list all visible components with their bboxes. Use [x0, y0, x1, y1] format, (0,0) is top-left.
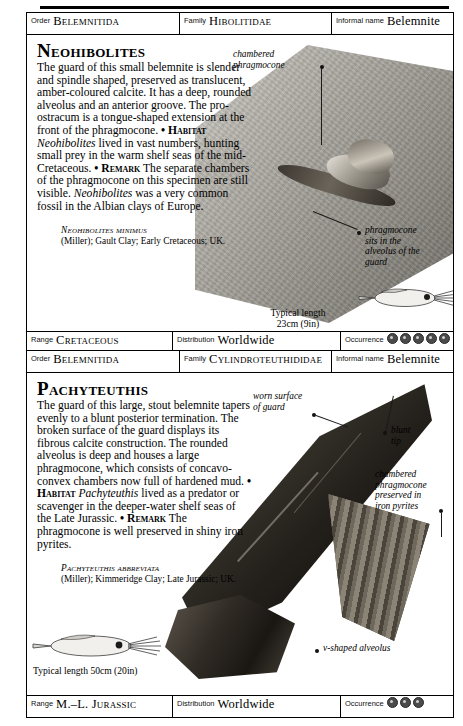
entry2-distribution-cell: Distribution Worldwide	[172, 696, 340, 718]
habitat-bullet: •	[247, 475, 251, 488]
entry2-occurrence-cell: Occurrence	[340, 696, 451, 718]
habitat-genus: Neohibolites	[37, 137, 96, 150]
specimen-photo-phragmocone-cone	[321, 491, 439, 641]
entry2-order-cell: Order Belemnitida	[27, 351, 179, 373]
remark-label: Remark	[101, 162, 140, 175]
entry2-specimen-caption: Pachyteuthis abbreviata (Miller); Kimmer…	[61, 563, 252, 585]
distribution-label: Distribution	[177, 699, 215, 708]
caption-line-1: chambered	[233, 49, 274, 59]
caption-marker-phragmocone-alveolus	[357, 231, 361, 235]
order-value: Belemnitida	[53, 352, 119, 367]
order-label: Order	[31, 354, 50, 363]
entry1-body: Neohibolites The guard of this small bel…	[27, 35, 453, 331]
specimen-detail: (Miller); Gault Clay; Early Cretaceous; …	[61, 236, 225, 246]
leader-line-pyrites	[441, 513, 442, 537]
caption-line-2: sits in the	[365, 236, 401, 246]
caption-line-1: worn surface	[253, 391, 302, 401]
entry1-order-cell: Order Belemnitida	[27, 13, 179, 35]
occurrence-dots	[387, 333, 451, 344]
entry2-informal-cell: Informal name Belemnite	[331, 351, 451, 373]
specimen-detail: (Miller); Kimmeridge Clay; Late Jurassic…	[61, 574, 236, 584]
caption-marker-chambered-phragmocone	[320, 65, 324, 69]
caption-line-2: phragmocone	[233, 60, 285, 70]
order-value: Belemnitida	[53, 14, 119, 29]
informal-name-label: Informal name	[336, 354, 384, 363]
description-text: The guard of this small belemnite is sle…	[37, 61, 251, 137]
genus-heading: Neohibolites	[37, 41, 252, 60]
informal-name-value: Belemnite	[387, 352, 440, 367]
page-top-rule	[40, 6, 449, 9]
specimen-name: Pachyteuthis abbreviata	[61, 563, 159, 573]
entry1-text-column: Neohibolites The guard of this small bel…	[37, 41, 252, 256]
entry2-body: Pachyteuthis The guard of this large, st…	[27, 373, 453, 695]
caption-line-1: chambered	[375, 469, 416, 479]
caption-line-3: alveolus of the	[365, 246, 420, 256]
description-text: The guard of this large, stout belemnite…	[37, 399, 250, 488]
entry1-informal-cell: Informal name Belemnite	[331, 13, 451, 35]
entry-neohibolites: Order Belemnitida Family Hibolitidae Inf…	[26, 12, 454, 354]
family-label: Family	[184, 16, 206, 25]
remark-bullet: •	[120, 512, 127, 525]
typical-length-label: Typical length 50cm (20in)	[33, 665, 138, 676]
occurrence-dot	[387, 333, 398, 344]
distribution-label: Distribution	[177, 335, 215, 344]
caption-marker-blunt-tip	[383, 431, 387, 435]
occurrence-dot	[413, 697, 424, 708]
caption-line-2: of guard	[253, 402, 285, 412]
typical-length-label: Typical length	[270, 307, 325, 318]
leader-line-chambered-phragmocone	[321, 67, 322, 145]
entry1-description: The guard of this small belemnite is sle…	[37, 62, 252, 213]
range-label: Range	[31, 335, 53, 344]
genus-heading: Pachyteuthis	[37, 379, 252, 398]
caption-v-shaped-alveolus: v-shaped alveolus	[323, 643, 449, 654]
occurrence-dots	[387, 697, 424, 708]
caption-blunt-tip: blunt tip	[391, 425, 449, 446]
remark-label: Remark	[127, 512, 166, 525]
informal-name-value: Belemnite	[387, 14, 440, 29]
caption-marker-worn-surface	[312, 413, 316, 417]
order-label: Order	[31, 16, 50, 25]
habitat-bullet: •	[161, 124, 168, 137]
belemnite-scale-drawing	[357, 283, 453, 313]
range-value: Cretaceous	[56, 333, 119, 348]
caption-line-2: phragmocone	[375, 480, 427, 490]
typical-length-pachyteuthis: Typical length 50cm (20in)	[33, 665, 193, 676]
caption-line-1: v-shaped alveolus	[323, 643, 390, 653]
distribution-value: Worldwide	[218, 697, 275, 712]
caption-line-3: preserved in	[375, 490, 421, 500]
belemnite-scale-drawing	[31, 629, 163, 663]
entry2-description: The guard of this large, stout belemnite…	[37, 400, 252, 551]
entry2-family-cell: Family Cylindroteuthididae	[179, 351, 331, 373]
entry2-range-cell: Range M.–L. Jurassic	[27, 696, 172, 718]
caption-line-1: phragmocone	[365, 225, 417, 235]
informal-name-label: Informal name	[336, 16, 384, 25]
typical-length-neohibolites: Typical length 23cm (9in)	[255, 307, 341, 329]
range-label: Range	[31, 699, 53, 708]
caption-line-4: guard	[365, 257, 387, 267]
entry2-footer-bar: Range M.–L. Jurassic Distribution Worldw…	[27, 695, 453, 717]
typical-length-value: 23cm (9in)	[277, 318, 319, 329]
family-value: Cylindroteuthididae	[209, 352, 322, 367]
range-value: M.–L. Jurassic	[56, 697, 136, 712]
entry-pachyteuthis: Order Belemnitida Family Cylindroteuthid…	[26, 350, 454, 718]
entry2-header-bar: Order Belemnitida Family Cylindroteuthid…	[27, 351, 453, 373]
habitat-label: Habitat	[168, 124, 207, 137]
occurrence-dot	[400, 697, 411, 708]
caption-phragmocone-alveolus: phragmocone sits in the alveolus of the …	[365, 225, 453, 267]
caption-line-4: iron pyrites	[375, 501, 418, 511]
caption-chambered-phragmocone: chambered phragmocone	[233, 49, 319, 70]
habitat-label: Habitat	[37, 487, 76, 500]
caption-marker-pyrites	[439, 509, 443, 513]
entry2-text-column: Pachyteuthis The guard of this large, st…	[37, 379, 252, 594]
caption-line-2: tip	[391, 436, 401, 446]
occurrence-label: Occurrence	[345, 699, 384, 708]
distribution-value: Worldwide	[218, 333, 275, 348]
habitat-genus: Pachyteuthis	[78, 487, 138, 500]
caption-worn-surface-of-guard: worn surface of guard	[253, 391, 337, 412]
remark-genus: Neohibolites	[74, 187, 133, 200]
entry1-specimen-caption: Neohibolites minimus (Miller); Gault Cla…	[61, 225, 252, 247]
occurrence-dot	[387, 697, 398, 708]
family-value: Hibolitidae	[209, 14, 271, 29]
occurrence-dot	[426, 333, 437, 344]
family-label: Family	[184, 354, 206, 363]
